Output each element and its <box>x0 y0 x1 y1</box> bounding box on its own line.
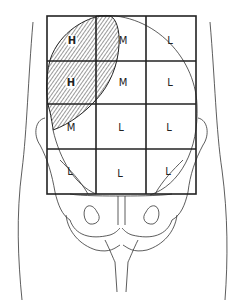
cell-label-r2c1: L <box>118 123 124 133</box>
pelvis <box>36 118 207 292</box>
cell-label-r1c0: H <box>65 77 77 89</box>
cell-label-r0c0: H <box>66 35 78 47</box>
cell-label-r3c2: L <box>165 167 171 177</box>
cell-label-r2c0: M <box>67 123 76 133</box>
abdominal-grid-diagram: H M L H M L M L L L L L <box>0 0 243 304</box>
cell-label-r3c0: L <box>67 167 73 177</box>
cell-label-r0c1: M <box>119 36 128 46</box>
cell-label-r1c1: M <box>119 78 128 88</box>
cell-label-r0c2: L <box>167 36 173 46</box>
liver-region <box>47 16 120 130</box>
cell-label-r2c2: L <box>166 123 172 133</box>
cell-label-r3c1: L <box>117 169 123 179</box>
cell-label-r1c2: L <box>167 78 173 88</box>
